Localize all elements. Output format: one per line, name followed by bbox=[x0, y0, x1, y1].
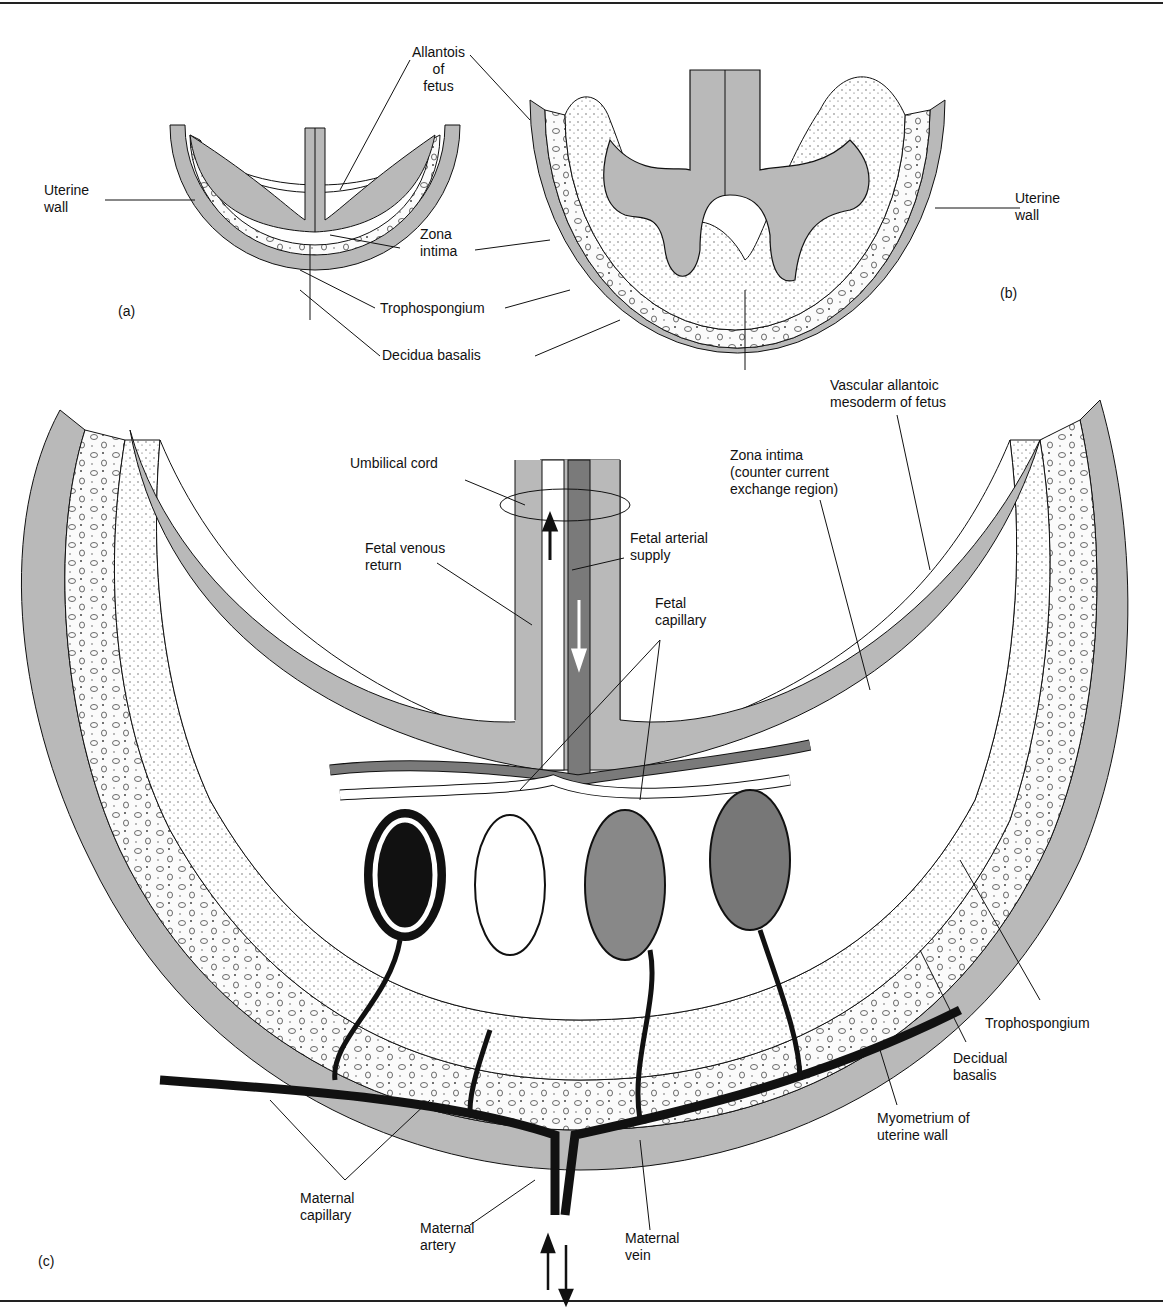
label-uterine-wall-a: Uterine wall bbox=[44, 182, 89, 216]
panel-b-drawing bbox=[530, 70, 945, 353]
label-maternal-vein: Maternal vein bbox=[625, 1230, 679, 1264]
label-trophospongium-a: Trophospongium bbox=[380, 300, 485, 317]
leader-decidua-a bbox=[300, 290, 380, 356]
label-vascular-allantoic-mesoderm: Vascular allantoic mesoderm of fetus bbox=[830, 377, 946, 411]
label-fetal-capillary: Fetal capillary bbox=[655, 595, 706, 629]
label-trophospongium-c: Trophospongium bbox=[985, 1015, 1090, 1032]
label-maternal-capillary: Maternal capillary bbox=[300, 1190, 354, 1224]
panel-label-c: (c) bbox=[38, 1253, 54, 1270]
panel-a-drawing bbox=[170, 125, 460, 320]
leader-maternal-capillary-1 bbox=[270, 1100, 345, 1180]
label-umbilical-cord: Umbilical cord bbox=[350, 455, 438, 472]
label-uterine-wall-b: Uterine wall bbox=[1015, 190, 1060, 224]
leader-trophospongium-b bbox=[505, 290, 570, 308]
label-fetal-venous-return: Fetal venous return bbox=[365, 540, 445, 574]
leader-decidua-b bbox=[535, 320, 620, 356]
panel-label-b: (b) bbox=[1000, 285, 1017, 302]
leader-trophospongium-a bbox=[300, 270, 375, 308]
leader-maternal-artery bbox=[470, 1180, 535, 1225]
leader-zona-intima-b bbox=[475, 240, 550, 250]
leader-allantois-b bbox=[470, 55, 530, 120]
label-allantois-of-fetus: Allantois of fetus bbox=[412, 44, 465, 95]
panel-label-a: (a) bbox=[118, 303, 135, 320]
label-zona-intima-a: Zona intima bbox=[420, 226, 457, 260]
leader-vascular-mesoderm bbox=[897, 415, 930, 570]
label-zona-intima-c: Zona intima (counter current exchange re… bbox=[730, 447, 838, 498]
placenta-diagram bbox=[0, 0, 1163, 1314]
label-fetal-arterial-supply: Fetal arterial supply bbox=[630, 530, 708, 564]
label-myometrium: Myometrium of uterine wall bbox=[877, 1110, 970, 1144]
label-decidua-basalis: Decidua basalis bbox=[382, 347, 481, 364]
label-maternal-artery: Maternal artery bbox=[420, 1220, 474, 1254]
label-decidual-basalis: Decidual basalis bbox=[953, 1050, 1007, 1084]
panel-c-drawing bbox=[21, 400, 1127, 1304]
